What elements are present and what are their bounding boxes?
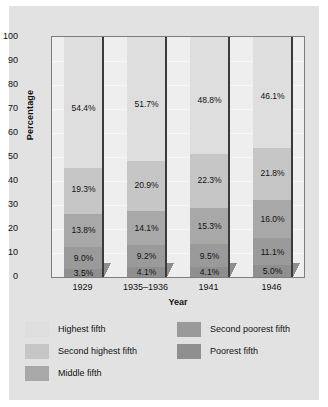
legend-label: Second poorest fifth <box>210 324 290 334</box>
bar-segment[interactable]: 16.0% <box>253 200 293 238</box>
bar-segment[interactable]: 5.0% <box>253 265 293 277</box>
bar-segment[interactable]: 15.3% <box>190 208 230 245</box>
x-tick-label: 1946 <box>261 282 281 292</box>
bar-value-label: 4.1% <box>190 267 230 277</box>
bar-value-label: 9.0% <box>64 253 104 263</box>
x-tick-label: 1929 <box>72 282 92 292</box>
bar-shadow <box>230 263 237 277</box>
bar-value-label: 22.3% <box>190 175 230 185</box>
bar-value-label: 9.5% <box>190 251 230 261</box>
y-tick-label: 20 <box>0 223 18 233</box>
bar-value-label: 9.2% <box>127 251 167 261</box>
bar-shadow <box>167 263 174 277</box>
bar-segment[interactable]: 21.8% <box>253 148 293 200</box>
legend-item[interactable]: Middle fifth <box>25 362 175 384</box>
legend-swatch <box>25 366 49 381</box>
legend-column-left: Highest fifthSecond highest fifthMiddle … <box>25 318 175 384</box>
bar-segment[interactable]: 22.3% <box>190 154 230 208</box>
legend-item[interactable]: Second highest fifth <box>25 340 175 362</box>
y-tick-label: 10 <box>0 247 18 257</box>
bar-edge <box>291 37 293 277</box>
legend-label: Middle fifth <box>58 368 102 378</box>
legend-label: Poorest fifth <box>210 346 258 356</box>
y-tick-label: 50 <box>0 151 18 161</box>
x-tick-label: 1935–1936 <box>123 282 168 292</box>
bar-value-label: 4.1% <box>127 267 167 277</box>
bar-group[interactable]: 3.5%9.0%13.8%19.3%54.4% <box>64 37 104 277</box>
bar-shadow <box>104 263 111 277</box>
y-tick-label: 30 <box>0 199 18 209</box>
bar-edge <box>228 37 230 277</box>
bar-group[interactable]: 5.0%11.1%16.0%21.8%46.1% <box>253 37 293 277</box>
bar-stack: 5.0%11.1%16.0%21.8%46.1% <box>253 37 293 277</box>
bar-value-label: 11.1% <box>253 247 293 257</box>
bar-stack: 3.5%9.0%13.8%19.3%54.4% <box>64 37 104 277</box>
bar-segment[interactable]: 48.8% <box>190 37 230 154</box>
bar-value-label: 51.7% <box>127 99 167 109</box>
legend-label: Second highest fifth <box>58 346 137 356</box>
bar-value-label: 54.4% <box>64 103 104 113</box>
bar-value-label: 15.3% <box>190 221 230 231</box>
bar-segment[interactable]: 20.9% <box>127 161 167 211</box>
y-tick-label: 100 <box>0 31 18 41</box>
bar-segment[interactable]: 14.1% <box>127 211 167 245</box>
bar-segment[interactable]: 9.5% <box>190 244 230 267</box>
bar-segment[interactable]: 9.2% <box>127 245 167 267</box>
legend-swatch <box>25 322 49 337</box>
bar-value-label: 21.8% <box>253 168 293 178</box>
bar-segment[interactable]: 4.1% <box>190 267 230 277</box>
bar-stack: 4.1%9.2%14.1%20.9%51.7% <box>127 37 167 277</box>
bar-segment[interactable]: 19.3% <box>64 168 104 214</box>
legend-item[interactable]: Highest fifth <box>25 318 175 340</box>
y-tick-label: 70 <box>0 103 18 113</box>
bar-group[interactable]: 4.1%9.5%15.3%22.3%48.8% <box>190 37 230 277</box>
y-tick-label: 60 <box>0 127 18 137</box>
legend-item[interactable]: Second poorest fifth <box>177 318 317 340</box>
y-tick-label: 0 <box>0 271 18 281</box>
legend-swatch <box>177 344 201 359</box>
bar-edge <box>102 37 104 277</box>
bar-segment[interactable]: 54.4% <box>64 37 104 168</box>
plot-area: 3.5%9.0%13.8%19.3%54.4%4.1%9.2%14.1%20.9… <box>51 36 305 278</box>
y-tick-label: 80 <box>0 79 18 89</box>
bar-value-label: 16.0% <box>253 214 293 224</box>
bar-value-label: 3.5% <box>64 268 104 278</box>
bar-segment[interactable]: 46.1% <box>253 37 293 148</box>
bar-value-label: 5.0% <box>253 266 293 276</box>
bar-stack: 4.1%9.5%15.3%22.3%48.8% <box>190 37 230 277</box>
bar-segment[interactable]: 13.8% <box>64 214 104 247</box>
x-tick-label: 1941 <box>198 282 218 292</box>
bar-value-label: 20.9% <box>127 180 167 190</box>
bar-shadow <box>293 263 300 277</box>
bar-edge <box>165 37 167 277</box>
bar-value-label: 46.1% <box>253 91 293 101</box>
bar-value-label: 48.8% <box>190 95 230 105</box>
bar-segment[interactable]: 11.1% <box>253 238 293 265</box>
x-axis-label: Year <box>51 297 305 307</box>
chart-figure: Percentage 3.5%9.0%13.8%19.3%54.4%4.1%9.… <box>9 6 319 400</box>
bar-value-label: 14.1% <box>127 223 167 233</box>
y-axis-label: Percentage <box>25 70 35 160</box>
bar-group[interactable]: 4.1%9.2%14.1%20.9%51.7% <box>127 37 167 277</box>
legend-swatch <box>177 322 201 337</box>
bar-segment[interactable]: 9.0% <box>64 247 104 269</box>
chart-legend: Highest fifthSecond highest fifthMiddle … <box>25 318 311 390</box>
legend-item[interactable]: Poorest fifth <box>177 340 317 362</box>
bar-value-label: 13.8% <box>64 225 104 235</box>
legend-label: Highest fifth <box>58 324 106 334</box>
y-tick-label: 40 <box>0 175 18 185</box>
plot-inner: 3.5%9.0%13.8%19.3%54.4%4.1%9.2%14.1%20.9… <box>52 37 304 277</box>
bar-segment[interactable]: 3.5% <box>64 269 104 277</box>
bar-value-label: 19.3% <box>64 184 104 194</box>
legend-swatch <box>25 344 49 359</box>
bar-segment[interactable]: 4.1% <box>127 267 167 277</box>
y-tick-label: 90 <box>0 55 18 65</box>
bar-segment[interactable]: 51.7% <box>127 37 167 161</box>
legend-column-right: Second poorest fifthPoorest fifth <box>177 318 317 362</box>
